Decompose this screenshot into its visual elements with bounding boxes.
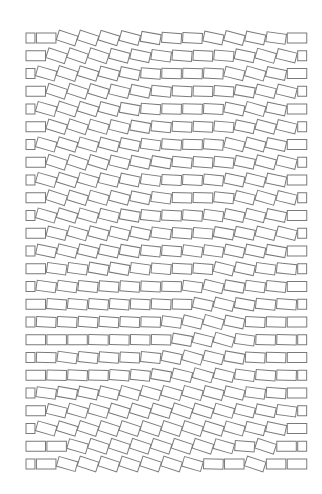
- brick: [266, 387, 286, 398]
- brick: [203, 68, 223, 79]
- brick: [193, 263, 213, 274]
- brick: [77, 101, 99, 116]
- brick: [77, 386, 98, 400]
- brick: [245, 244, 266, 258]
- brick: [298, 441, 307, 451]
- brick: [244, 102, 266, 117]
- brick: [298, 370, 307, 380]
- brick: [109, 370, 129, 381]
- brick: [266, 422, 287, 436]
- brick: [129, 403, 151, 418]
- brick: [214, 50, 234, 62]
- brick: [89, 335, 109, 345]
- brick: [183, 174, 203, 185]
- brick: [77, 421, 99, 437]
- brick: [88, 155, 110, 170]
- brick: [214, 156, 234, 168]
- brick: [224, 173, 245, 187]
- brick: [77, 30, 99, 46]
- brick: [47, 441, 67, 451]
- brick: [224, 244, 245, 258]
- brick: [67, 298, 87, 310]
- brick: [98, 30, 120, 45]
- brick: [255, 155, 276, 170]
- brick: [161, 456, 183, 472]
- brick: [224, 209, 245, 223]
- brick: [26, 353, 35, 363]
- brick: [36, 387, 57, 400]
- brick: [47, 299, 67, 310]
- brick: [36, 316, 56, 327]
- brick: [192, 333, 213, 347]
- brick: [234, 369, 255, 382]
- brick: [130, 191, 151, 205]
- brick: [26, 264, 46, 274]
- brick: [78, 316, 98, 327]
- brick: [276, 155, 297, 169]
- brick: [182, 421, 204, 437]
- brick: [245, 31, 266, 45]
- brick: [109, 190, 130, 205]
- brick: [276, 120, 297, 134]
- brick: [151, 299, 171, 310]
- brick: [130, 369, 150, 381]
- brick: [276, 404, 297, 417]
- brick: [266, 138, 287, 152]
- brick: [26, 193, 46, 203]
- brick: [68, 335, 88, 345]
- brick: [234, 49, 255, 63]
- brick: [192, 403, 214, 418]
- brick: [56, 137, 78, 152]
- brick: [192, 438, 214, 454]
- brick: [26, 33, 35, 43]
- brick: [109, 403, 131, 418]
- brick: [172, 86, 192, 97]
- brick: [172, 299, 192, 310]
- brick: [266, 352, 286, 363]
- brick: [276, 84, 297, 98]
- brick: [26, 335, 46, 345]
- brick: [234, 298, 255, 311]
- brick: [213, 227, 234, 240]
- brick: [203, 103, 223, 114]
- brick: [224, 102, 245, 116]
- brick: [276, 263, 296, 275]
- brick: [109, 120, 130, 134]
- brick: [193, 50, 213, 61]
- brick: [162, 139, 182, 150]
- brick: [46, 190, 68, 206]
- brick: [287, 282, 307, 292]
- brick: [255, 190, 277, 205]
- brick: [46, 154, 68, 170]
- brick: [193, 157, 213, 168]
- brick: [203, 459, 223, 470]
- brick: [203, 174, 223, 186]
- brick: [298, 157, 307, 167]
- brick: [77, 244, 98, 258]
- brick: [150, 438, 172, 454]
- brick: [203, 350, 224, 364]
- brick: [119, 138, 140, 152]
- brick: [77, 66, 99, 81]
- brick: [276, 49, 297, 63]
- brick: [26, 104, 35, 114]
- brick: [255, 226, 276, 240]
- brick: [172, 263, 192, 274]
- brick: [234, 191, 255, 205]
- brick: [130, 262, 151, 275]
- brick: [98, 102, 119, 117]
- brick: [298, 228, 307, 238]
- brick: [161, 316, 182, 329]
- brick: [151, 369, 172, 382]
- brick: [172, 121, 192, 132]
- brick: [266, 209, 287, 223]
- brick: [151, 191, 172, 204]
- brick: [245, 387, 266, 400]
- brick: [255, 404, 276, 418]
- brick: [276, 299, 296, 310]
- brick: [234, 333, 255, 346]
- brick: [47, 370, 67, 381]
- brick: [245, 352, 265, 363]
- brick: [99, 281, 119, 292]
- brick: [56, 66, 78, 82]
